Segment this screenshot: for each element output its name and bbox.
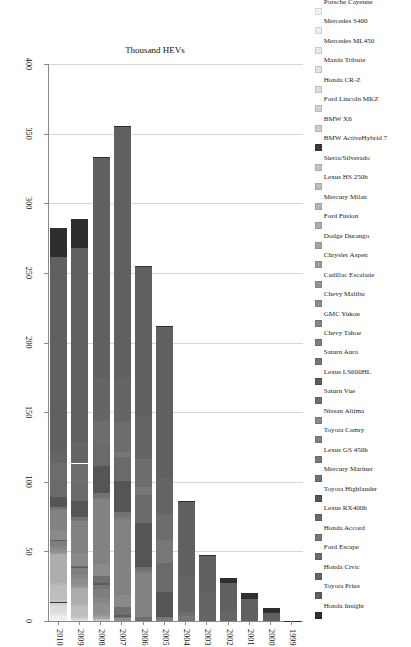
bar-segment[interactable]: [71, 248, 88, 443]
bar-segment[interactable]: [50, 603, 67, 605]
bar-segment[interactable]: [50, 606, 67, 613]
bar-segment[interactable]: [50, 585, 67, 600]
bar-segment[interactable]: [178, 620, 195, 621]
bar-segment[interactable]: [50, 530, 67, 540]
bar-segment[interactable]: [284, 621, 301, 622]
bar-segment[interactable]: [114, 379, 131, 423]
bar-stack[interactable]: [50, 64, 67, 621]
bar-segment[interactable]: [50, 613, 67, 614]
bar-stack[interactable]: [135, 64, 152, 621]
bar-segment[interactable]: [178, 612, 195, 616]
bar-segment[interactable]: [50, 554, 67, 583]
bar-segment[interactable]: [241, 593, 258, 600]
bar-segment[interactable]: [135, 266, 152, 267]
bar-segment[interactable]: [114, 126, 131, 378]
bar-segment[interactable]: [93, 499, 110, 563]
bar-segment[interactable]: [93, 378, 110, 422]
bar-segment[interactable]: [156, 514, 173, 540]
bar-segment[interactable]: [71, 588, 88, 604]
bar-segment[interactable]: [71, 464, 88, 485]
bar-segment[interactable]: [156, 478, 173, 514]
bar-segment[interactable]: [178, 576, 195, 612]
bar-segment[interactable]: [50, 510, 67, 530]
bar-segment[interactable]: [220, 583, 237, 611]
bar-segment[interactable]: [93, 493, 110, 498]
bar-segment[interactable]: [50, 479, 67, 498]
bar-stack[interactable]: [156, 64, 173, 621]
bar-segment[interactable]: [93, 589, 110, 598]
bar-segment[interactable]: [263, 613, 280, 621]
bar-segment[interactable]: [71, 618, 88, 620]
bar-segment[interactable]: [93, 585, 110, 589]
bar-segment[interactable]: [135, 567, 152, 571]
bar-segment[interactable]: [93, 614, 110, 616]
bar-segment[interactable]: [263, 608, 280, 613]
bar-segment[interactable]: [135, 571, 152, 573]
bar-stack[interactable]: [178, 64, 195, 621]
bar-segment[interactable]: [178, 501, 195, 502]
bar-segment[interactable]: [135, 495, 152, 523]
bar-segment[interactable]: [114, 512, 131, 517]
bar-segment[interactable]: [71, 587, 88, 588]
bar-segment[interactable]: [50, 546, 67, 549]
bar-segment[interactable]: [71, 579, 88, 585]
bar-segment[interactable]: [114, 615, 131, 616]
bar-segment[interactable]: [114, 617, 131, 618]
bar-segment[interactable]: [50, 614, 67, 616]
bar-segment[interactable]: [71, 566, 88, 567]
bar-segment[interactable]: [50, 619, 67, 621]
bar-segment[interactable]: [114, 126, 131, 127]
bar-segment[interactable]: [50, 616, 67, 619]
bar-segment[interactable]: [114, 607, 131, 616]
bar-segment[interactable]: [114, 618, 131, 621]
bar-segment[interactable]: [199, 556, 216, 590]
bar-segment[interactable]: [93, 564, 110, 576]
bar-stack[interactable]: [71, 64, 88, 621]
bar-segment[interactable]: [50, 541, 67, 546]
bar-segment[interactable]: [50, 497, 67, 507]
bar-segment[interactable]: [114, 481, 131, 512]
bar-segment[interactable]: [71, 575, 88, 579]
bar-segment[interactable]: [135, 573, 152, 617]
bar-segment[interactable]: [71, 567, 88, 568]
bar-segment[interactable]: [71, 616, 88, 619]
bar-segment[interactable]: [156, 618, 173, 621]
bar-segment[interactable]: [93, 598, 110, 603]
bar-segment[interactable]: [199, 555, 216, 557]
bar-segment[interactable]: [93, 617, 110, 619]
bar-segment[interactable]: [93, 583, 110, 584]
bar-segment[interactable]: [156, 592, 173, 617]
bar-segment[interactable]: [71, 620, 88, 621]
bar-segment[interactable]: [93, 157, 110, 158]
bar-segment[interactable]: [71, 521, 88, 553]
bar-segment[interactable]: [156, 617, 173, 618]
bar-segment[interactable]: [156, 326, 173, 327]
bar-segment[interactable]: [135, 459, 152, 487]
bar-segment[interactable]: [50, 540, 67, 541]
bar-segment[interactable]: [93, 466, 110, 493]
bar-segment[interactable]: [114, 519, 131, 595]
bar-segment[interactable]: [93, 157, 110, 378]
bar-segment[interactable]: [50, 257, 67, 453]
bar-segment[interactable]: [114, 517, 131, 519]
bar-stack[interactable]: [284, 64, 301, 621]
bar-segment[interactable]: [135, 617, 152, 621]
bar-segment[interactable]: [50, 600, 67, 603]
bar-segment[interactable]: [135, 415, 152, 459]
bar-segment[interactable]: [114, 595, 131, 607]
bar-segment[interactable]: [71, 442, 88, 463]
bar-segment[interactable]: [135, 523, 152, 567]
bar-segment[interactable]: [114, 452, 131, 457]
bar-segment[interactable]: [71, 568, 88, 575]
bar-segment[interactable]: [50, 549, 67, 552]
bar-segment[interactable]: [50, 228, 67, 257]
bar-segment[interactable]: [114, 457, 131, 481]
bar-segment[interactable]: [93, 603, 110, 614]
bar-segment[interactable]: [220, 611, 237, 621]
bar-segment[interactable]: [50, 602, 67, 603]
bar-segment[interactable]: [178, 501, 195, 576]
bar-segment[interactable]: [135, 487, 152, 495]
bar-segment[interactable]: [71, 219, 88, 248]
bar-segment[interactable]: [71, 567, 88, 568]
bar-segment[interactable]: [71, 604, 88, 606]
